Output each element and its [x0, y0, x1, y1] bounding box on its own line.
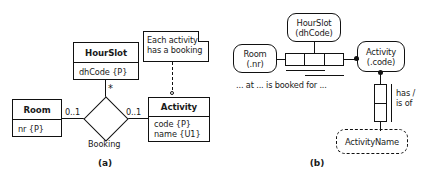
note-anchor-circle	[170, 91, 174, 95]
object-type-activity-ref: (.code)	[367, 57, 395, 67]
entity-hourslot-title: HourSlot	[74, 49, 138, 58]
multiplicity-hourslot-end: *	[108, 84, 113, 94]
uniqueness-bar-activityname-1	[391, 84, 392, 122]
edge-hourslot-booking-role	[314, 42, 315, 54]
note-text-line-1: Each activity	[147, 35, 198, 45]
role-booking-activity	[325, 54, 343, 65]
caption-a: (a)	[85, 158, 125, 168]
relationship-booking-label: Booking	[88, 140, 120, 148]
note-text-line-2: has a booking	[147, 45, 202, 55]
role-booking-room	[286, 54, 305, 65]
entity-activity-attr-1: name {U1}	[154, 129, 201, 139]
entity-room-title: Room	[13, 106, 61, 115]
predicate-reading-activityname: has / is of	[396, 88, 422, 108]
edge-activity-name-top	[380, 73, 381, 84]
edge-activity-name-bottom	[380, 122, 381, 131]
entity-activity-attr-0: code {P}	[154, 119, 191, 129]
entity-room-divider	[13, 119, 61, 120]
diagram-a: HourSlot dhCode {P} Room nr {P} Activity…	[0, 0, 211, 180]
object-type-activity-name: Activity	[366, 47, 396, 57]
entity-activity: Activity code {P} name {U1}	[148, 97, 210, 142]
edge-room-booking	[62, 118, 84, 119]
diagram-b: HourSlot (dhCode) Room (.nr) Activity (.…	[211, 0, 422, 180]
object-type-hourslot-name: HourSlot	[296, 18, 331, 28]
object-type-activity: Activity (.code)	[357, 41, 405, 72]
note-anchor-dashed-line	[172, 62, 173, 90]
uniqueness-bar-booking-1	[286, 70, 325, 71]
role-booking-hourslot	[305, 54, 324, 65]
entity-hourslot: HourSlot dhCode {P}	[73, 42, 139, 80]
role-activityname-value	[375, 104, 386, 122]
fact-type-activityname-roles	[374, 84, 387, 122]
multiplicity-activity-end: 0..1	[126, 108, 141, 116]
predicate-reading-booking: ... at ... is booked for ...	[236, 80, 327, 90]
entity-room: Room nr {P}	[12, 99, 62, 137]
figure-container: HourSlot dhCode {P} Room nr {P} Activity…	[0, 0, 422, 180]
entity-activity-title: Activity	[149, 103, 209, 112]
predicate-reading-activityname-line-1: has	[396, 88, 410, 98]
entity-hourslot-divider	[74, 62, 138, 63]
uniqueness-bar-booking-2	[305, 75, 344, 76]
object-type-room: Room (.nr)	[233, 44, 277, 73]
mandatory-dot-activity-booking	[354, 56, 359, 61]
object-type-activityname-name: ActivityName	[345, 137, 399, 147]
note-each-activity-has-a-booking: Each activity has a booking	[143, 31, 209, 62]
relationship-booking-diamond	[83, 96, 128, 141]
object-type-hourslot: HourSlot (dhCode)	[287, 13, 341, 42]
role-activityname-activity	[375, 85, 386, 104]
entity-room-attr-0: nr {P}	[18, 124, 44, 134]
note-text: Each activity has a booking	[147, 35, 206, 55]
edge-booking-activity	[126, 118, 148, 119]
entity-activity-divider	[149, 116, 209, 117]
object-type-hourslot-ref: (dhCode)	[295, 28, 332, 38]
fact-type-booking-roles	[285, 53, 344, 66]
caption-b: (b)	[297, 158, 337, 168]
edge-room-booking-role	[277, 59, 286, 60]
multiplicity-room-end: 0..1	[65, 108, 80, 116]
object-type-room-ref: (.nr)	[246, 59, 263, 69]
object-type-room-name: Room	[243, 49, 266, 59]
object-type-activityname: ActivityName	[336, 129, 408, 154]
entity-hourslot-attr-0: dhCode {P}	[79, 67, 127, 77]
